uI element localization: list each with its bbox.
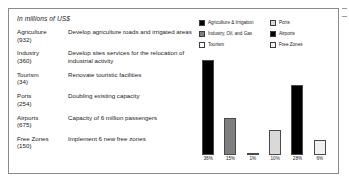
row-description: Develop sites services for the relocatio…: [65, 49, 192, 64]
legend-label: Tourism: [208, 42, 224, 47]
bar: [291, 85, 303, 155]
table-row: Industry (360) Develop sites services fo…: [17, 49, 192, 64]
row-sector: Agriculture (932): [17, 28, 65, 43]
edge-mark: [342, 16, 347, 17]
bar-value-label: 1%: [242, 156, 264, 166]
sector-name: Tourism: [17, 71, 39, 78]
table-row: Airports (675) Capacity of 6 million pas…: [17, 114, 192, 129]
legend-label: Agriculture & Irrigation: [208, 20, 253, 25]
legend-swatch: [270, 31, 276, 37]
legend-item: Tourism: [199, 39, 266, 50]
row-sector: Tourism (34): [17, 71, 65, 86]
bar-value-label: 38%: [197, 156, 219, 166]
sector-name: Ports: [17, 92, 31, 99]
chart-legend: Agriculture & Irrigation Ports Industry,…: [199, 17, 333, 50]
bar: [269, 130, 281, 155]
table-row: Tourism (34) Renovate touristic faciliti…: [17, 71, 192, 86]
sector-name: Industry: [17, 49, 39, 56]
bar: [314, 140, 326, 155]
bar-slot: [219, 55, 241, 155]
sector-name: Airports: [17, 114, 38, 121]
sector-amount: (360): [17, 57, 65, 65]
row-description: Doubling existing capacity: [65, 92, 192, 100]
sector-amount: (932): [17, 36, 65, 44]
table-row: Agriculture (932) Develop agriculture ro…: [17, 28, 192, 43]
table-row: Ports (254) Doubling existing capacity: [17, 92, 192, 107]
legend-swatch: [199, 42, 205, 48]
bar-slot: [197, 55, 219, 155]
table-rows: Agriculture (932) Develop agriculture ro…: [17, 28, 192, 156]
legend-label: Industry, Oil, and Gas: [208, 31, 252, 36]
legend-item: Industry, Oil, and Gas: [199, 28, 266, 39]
legend-swatch: [270, 42, 276, 48]
bar-slot: [242, 55, 264, 155]
sector-name: Free Zones: [17, 135, 49, 142]
sector-amount: (254): [17, 100, 65, 108]
legend-label: Ports: [279, 20, 290, 25]
x-axis-labels: 38% 15% 1% 10% 28% 6%: [197, 156, 331, 166]
row-description: Renovate touristic facilities: [65, 71, 192, 79]
sector-table: In millions of US$ Agriculture (932) Dev…: [17, 15, 192, 169]
bar: [202, 60, 214, 155]
bar-series: [197, 55, 331, 155]
row-description: Develop agriculture roads and irrigated …: [65, 28, 192, 36]
legend-item: Free Zones: [266, 39, 333, 50]
legend-swatch: [270, 20, 276, 26]
figure-container: In millions of US$ Agriculture (932) Dev…: [8, 8, 339, 174]
legend-item: Agriculture & Irrigation: [199, 17, 266, 28]
row-sector: Airports (675): [17, 114, 65, 129]
legend-label: Airports: [279, 31, 295, 36]
bar-value-label: 15%: [219, 156, 241, 166]
legend-item: Ports: [266, 17, 333, 28]
sector-name: Agriculture: [17, 28, 47, 35]
row-sector: Industry (360): [17, 49, 65, 64]
bar-slot: [264, 55, 286, 155]
row-sector: Free Zones (150): [17, 135, 65, 150]
row-description: Implement 6 new free zones: [65, 135, 192, 143]
sector-amount: (34): [17, 78, 65, 86]
edge-mark: [342, 8, 347, 9]
units-note: In millions of US$: [17, 15, 192, 22]
row-sector: Ports (254): [17, 92, 65, 107]
bar-value-label: 6%: [309, 156, 331, 166]
legend-swatch: [199, 20, 205, 26]
legend-swatch: [199, 31, 205, 37]
bar-value-label: 28%: [286, 156, 308, 166]
row-description: Capacity of 6 million passengers: [65, 114, 192, 122]
legend-label: Free Zones: [279, 42, 303, 47]
bar-value-label: 10%: [264, 156, 286, 166]
bar-slot: [309, 55, 331, 155]
bar: [224, 118, 236, 156]
page-edge-marks: [342, 8, 348, 30]
bar-chart: Agriculture & Irrigation Ports Industry,…: [195, 13, 333, 169]
plot-area: 38% 15% 1% 10% 28% 6%: [197, 55, 331, 167]
sector-amount: (675): [17, 121, 65, 129]
bar: [247, 153, 259, 156]
bar-slot: [286, 55, 308, 155]
legend-item: Airports: [266, 28, 333, 39]
sector-amount: (150): [17, 142, 65, 150]
table-row: Free Zones (150) Implement 6 new free zo…: [17, 135, 192, 150]
